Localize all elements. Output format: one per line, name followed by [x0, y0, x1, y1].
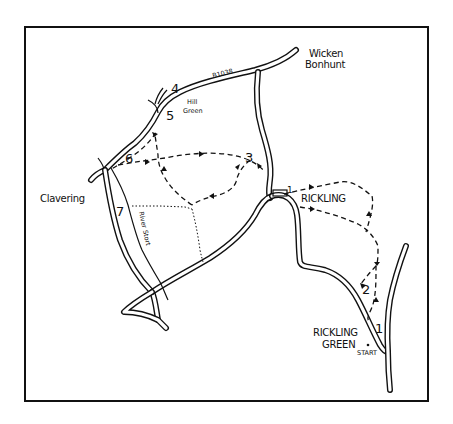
waypoint-2: 2	[362, 282, 370, 297]
start-dot	[367, 344, 370, 347]
label-green: Green	[183, 107, 203, 115]
label-rickling: RICKLING	[301, 193, 346, 204]
waypoint-6: 6	[125, 151, 133, 166]
label-clavering: Clavering	[40, 193, 85, 204]
roads	[91, 50, 406, 390]
labels: Wicken Bonhunt B1038 Hill Green Claverin…	[40, 48, 383, 357]
road-triangle-junction	[124, 292, 166, 328]
route-map: Wicken Bonhunt B1038 Hill Green Claverin…	[0, 0, 453, 424]
waypoint-3: 3	[245, 150, 253, 165]
label-start: START	[357, 349, 377, 357]
label-wicken: Wicken	[309, 48, 343, 59]
waypoint-1-rickling: 1	[287, 185, 293, 195]
road-diagonal-rickling	[152, 196, 272, 292]
waypoint-4: 4	[171, 81, 179, 96]
road-north-south	[257, 72, 271, 198]
label-hill: Hill	[187, 98, 197, 106]
road-east	[387, 246, 406, 390]
label-rickling-green-1: RICKLING	[313, 327, 358, 338]
label-rickling-green-2: GREEN	[322, 339, 355, 350]
waypoint-5: 5	[166, 108, 174, 123]
label-bonhunt: Bonhunt	[305, 59, 346, 70]
waypoint-7: 7	[116, 204, 124, 219]
waypoint-1-start: 1	[375, 321, 383, 336]
